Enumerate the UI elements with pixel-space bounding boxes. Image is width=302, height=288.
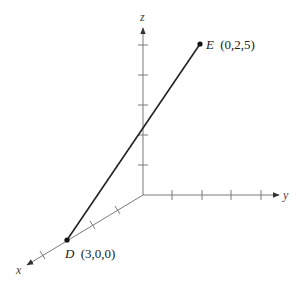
- y-axis: y: [143, 188, 289, 202]
- z-axis-label: z: [139, 10, 145, 24]
- z-axis: z: [138, 10, 148, 195]
- point-d-marker: [64, 237, 69, 242]
- point-e-label: E (0,2,5): [205, 37, 255, 52]
- x-axis-label: x: [15, 263, 22, 277]
- y-axis-label: y: [282, 188, 289, 202]
- point-e: E (0,2,5): [197, 37, 254, 52]
- point-d-label: D (3,0,0): [64, 246, 115, 261]
- segment-de: [67, 44, 200, 240]
- point-d: D (3,0,0): [64, 237, 115, 261]
- x-axis: x: [15, 195, 143, 277]
- point-e-marker: [197, 41, 202, 46]
- coordinate-diagram: z y x D (3,0,0) E (0,2,5): [0, 0, 302, 288]
